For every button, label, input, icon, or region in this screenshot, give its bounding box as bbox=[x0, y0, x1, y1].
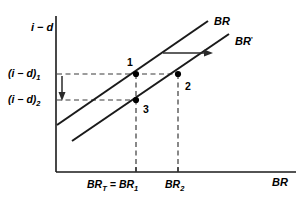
data-point-3 bbox=[133, 97, 139, 103]
x-tick-label-br1-subscript: 1 bbox=[134, 184, 138, 193]
x-tick-label-br2-subscript: 2 bbox=[180, 184, 184, 193]
point-label-1: 1 bbox=[127, 57, 133, 68]
curve-label-br-prime: BR' bbox=[235, 36, 253, 47]
data-point-2 bbox=[175, 71, 181, 77]
y-tick-label-id1-subscript: 1 bbox=[36, 73, 40, 82]
x-tick-label-br2: BR2 bbox=[165, 179, 184, 190]
x-tick-label-equals: = bbox=[107, 178, 119, 190]
x-tick-label-brt-subscript: T bbox=[102, 184, 107, 193]
y-tick-label-id1: (i − d)1 bbox=[8, 68, 40, 79]
y-tick-label-id1-base: (i − d) bbox=[8, 67, 36, 79]
shift-right-arrow bbox=[163, 50, 213, 57]
x-tick-label-br1-base: BR bbox=[119, 178, 134, 190]
rate-drop-arrow bbox=[59, 76, 66, 101]
point-label-2: 2 bbox=[185, 81, 191, 92]
y-tick-label-id2-base: (i − d) bbox=[8, 93, 36, 105]
curve-label-br-prime-mark: ' bbox=[251, 35, 253, 44]
curve-br bbox=[57, 21, 208, 125]
data-point-1 bbox=[133, 71, 139, 77]
curve-label-br-prime-text: BR bbox=[235, 35, 251, 47]
y-tick-label-id2: (i − d)2 bbox=[8, 94, 40, 105]
x-tick-label-brt-base: BR bbox=[87, 178, 102, 190]
x-tick-label-br2-base: BR bbox=[165, 178, 180, 190]
x-tick-label-brt-br1: BRT=BR1 bbox=[87, 179, 138, 190]
curve-br-prime bbox=[72, 34, 229, 141]
economics-diagram: i − d BR (i − d)1 (i − d)2 BRT=BR1 BR2 B… bbox=[0, 0, 301, 204]
y-tick-label-id2-subscript: 2 bbox=[36, 99, 40, 108]
point-label-3: 3 bbox=[143, 104, 149, 115]
curve-label-br-text: BR bbox=[214, 15, 230, 27]
y-axis-title: i − d bbox=[31, 22, 53, 33]
x-axis-title: BR bbox=[272, 177, 288, 188]
curve-label-br: BR bbox=[214, 16, 230, 27]
